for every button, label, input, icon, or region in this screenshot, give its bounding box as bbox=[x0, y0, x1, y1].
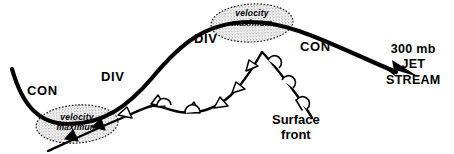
surface-front-label: Surface front bbox=[272, 112, 320, 143]
warm-front-line bbox=[262, 52, 312, 118]
label-divergence-right: DIV bbox=[194, 32, 217, 46]
label-divergence-left: DIV bbox=[101, 70, 124, 84]
surface-front-label-line1: Surface bbox=[272, 112, 320, 127]
warm-front-pips bbox=[157, 56, 309, 113]
surface-front-label-line2: front bbox=[272, 127, 320, 142]
label-convergence-right: CON bbox=[300, 40, 331, 54]
label-convergence-left: CON bbox=[27, 84, 58, 98]
jet-stream-label-line2: JET bbox=[386, 57, 441, 72]
jet-stream-label-line3: STREAM bbox=[386, 73, 441, 88]
jet-stream-label: 300 mb JET STREAM bbox=[386, 42, 441, 88]
jet-stream-label-line1: 300 mb bbox=[386, 42, 441, 57]
jet-stream-front-diagram: CON DIV DIV CON velocity maximum velocit… bbox=[0, 0, 454, 154]
